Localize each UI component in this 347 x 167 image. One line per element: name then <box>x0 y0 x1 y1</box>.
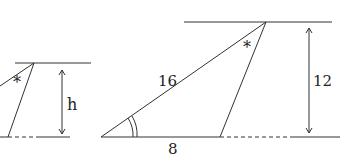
base-label: 8 <box>168 140 178 158</box>
right-height-label: 12 <box>313 72 332 90</box>
left-angle-marker: * <box>13 73 21 92</box>
right-hypotenuse <box>101 22 266 137</box>
left-side-line <box>8 63 34 137</box>
hypotenuse-label: 16 <box>158 72 177 90</box>
right-angle-marker: * <box>243 38 251 57</box>
geometry-diagram: * h * 16 8 12 <box>0 0 347 167</box>
left-height-label: h <box>67 95 77 114</box>
angle-arc-inner-icon <box>128 118 133 137</box>
